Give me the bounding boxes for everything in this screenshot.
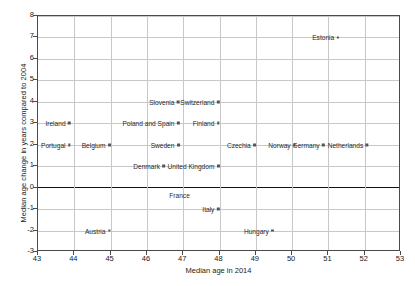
data-point-label: Slovenia bbox=[149, 98, 174, 105]
data-point-label: Denmark bbox=[133, 163, 160, 170]
data-point-marker bbox=[322, 143, 325, 146]
gridline-horizontal bbox=[38, 16, 399, 17]
data-point-marker bbox=[253, 143, 256, 146]
data-point-marker bbox=[217, 165, 220, 168]
x-tick-label: 45 bbox=[98, 254, 122, 263]
scatter-chart-figure: Median age change in years compared to 2… bbox=[0, 0, 415, 286]
data-point-label: Norway bbox=[268, 141, 290, 148]
x-tick-mark bbox=[110, 251, 111, 255]
y-tick-label: 8 bbox=[12, 11, 34, 19]
data-point-label: Hungary bbox=[244, 227, 269, 234]
x-tick-mark bbox=[37, 251, 38, 255]
data-point: Slovenia bbox=[149, 98, 179, 105]
x-tick-mark bbox=[219, 251, 220, 255]
data-point-label: Ireland bbox=[45, 120, 65, 127]
data-point: Sweden bbox=[151, 141, 180, 148]
data-point-label: Sweden bbox=[151, 141, 175, 148]
gridline-vertical bbox=[328, 16, 329, 250]
data-point: Hungary bbox=[244, 227, 274, 234]
data-point-label: Finland bbox=[193, 120, 215, 127]
gridline-horizontal bbox=[38, 37, 399, 38]
data-point-marker bbox=[217, 101, 220, 104]
data-point-marker bbox=[366, 143, 369, 146]
data-point: Poland and Spain bbox=[122, 120, 179, 127]
y-tick-label: 1 bbox=[12, 161, 34, 169]
x-tick-label: 50 bbox=[279, 254, 303, 263]
data-point-marker bbox=[337, 36, 340, 39]
x-tick-mark bbox=[73, 251, 74, 255]
data-point-label: Italy bbox=[202, 206, 214, 213]
y-tick-label: 2 bbox=[12, 140, 34, 148]
x-tick-label: 46 bbox=[134, 254, 158, 263]
gridline-horizontal bbox=[38, 80, 399, 81]
gridline-vertical bbox=[365, 16, 366, 250]
zero-baseline bbox=[38, 187, 399, 189]
gridline-vertical bbox=[292, 16, 293, 250]
x-tick-mark bbox=[364, 251, 365, 255]
y-tick-label: 7 bbox=[12, 32, 34, 40]
data-point-marker bbox=[271, 229, 274, 232]
data-point-label: Estonia bbox=[312, 34, 334, 41]
data-point-label: Switzerland bbox=[180, 98, 214, 105]
data-point: Italy bbox=[202, 206, 219, 213]
data-point-marker bbox=[162, 165, 165, 168]
gridline-horizontal bbox=[38, 59, 399, 60]
x-tick-label: 48 bbox=[207, 254, 231, 263]
x-axis-title: Median age in 2014 bbox=[37, 266, 400, 275]
data-point-label: Czechia bbox=[227, 141, 251, 148]
data-point-label: Portugal bbox=[41, 141, 66, 148]
data-point-marker bbox=[177, 101, 180, 104]
data-point-label: Austria bbox=[85, 227, 106, 234]
gridline-vertical bbox=[74, 16, 75, 250]
data-point-marker bbox=[177, 143, 180, 146]
data-point-label: United Kingdom bbox=[167, 163, 214, 170]
x-tick-mark bbox=[400, 251, 401, 255]
data-point: Ireland bbox=[45, 120, 70, 127]
x-tick-mark bbox=[327, 251, 328, 255]
y-tick-label: 3 bbox=[12, 118, 34, 126]
x-tick-label: 53 bbox=[388, 254, 412, 263]
data-point: Germany bbox=[293, 141, 325, 148]
x-tick-mark bbox=[146, 251, 147, 255]
data-point: Denmark bbox=[133, 163, 165, 170]
data-point-marker bbox=[217, 122, 220, 125]
x-tick-mark bbox=[182, 251, 183, 255]
y-tick-label: 0 bbox=[12, 183, 34, 191]
data-point-label: Belgium bbox=[82, 141, 106, 148]
plot-area: EstoniaSloveniaSwitzerlandIrelandPoland … bbox=[37, 15, 400, 251]
gridline-vertical bbox=[147, 16, 148, 250]
x-tick-label: 43 bbox=[25, 254, 49, 263]
y-tick-label: 4 bbox=[12, 97, 34, 105]
data-point: United Kingdom bbox=[167, 163, 219, 170]
data-point-marker bbox=[108, 229, 111, 232]
y-tick-label: 6 bbox=[12, 54, 34, 62]
y-tick-label: -2 bbox=[12, 226, 34, 234]
data-point: France bbox=[169, 191, 190, 198]
data-point: Netherlands bbox=[328, 141, 369, 148]
data-point-marker bbox=[217, 208, 220, 211]
data-point: Finland bbox=[193, 120, 220, 127]
data-point-label: Germany bbox=[293, 141, 320, 148]
data-point: Belgium bbox=[82, 141, 111, 148]
gridline-vertical bbox=[111, 16, 112, 250]
data-point-marker bbox=[177, 122, 180, 125]
data-point: Estonia bbox=[312, 34, 339, 41]
x-tick-label: 52 bbox=[352, 254, 376, 263]
data-point-marker bbox=[68, 122, 71, 125]
data-point-marker bbox=[68, 143, 71, 146]
x-tick-mark bbox=[255, 251, 256, 255]
gridline-vertical bbox=[220, 16, 221, 250]
data-point-marker bbox=[108, 143, 111, 146]
x-tick-mark bbox=[291, 251, 292, 255]
gridline-vertical bbox=[183, 16, 184, 250]
y-tick-label: 5 bbox=[12, 75, 34, 83]
x-tick-label: 47 bbox=[170, 254, 194, 263]
data-point-label: France bbox=[169, 191, 190, 198]
y-tick-label: -1 bbox=[12, 204, 34, 212]
data-point: Austria bbox=[85, 227, 111, 234]
data-point-label: Poland and Spain bbox=[122, 120, 174, 127]
x-tick-label: 49 bbox=[243, 254, 267, 263]
x-tick-label: 44 bbox=[61, 254, 85, 263]
data-point: Switzerland bbox=[180, 98, 219, 105]
data-point-label: Netherlands bbox=[328, 141, 364, 148]
